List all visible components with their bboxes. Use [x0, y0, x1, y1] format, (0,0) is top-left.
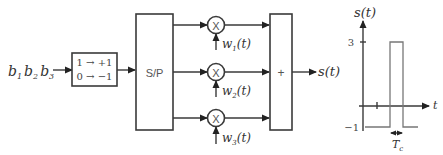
svg-text:b1b2b3: b1b2b3: [8, 63, 54, 81]
branch-2: X w2(t): [173, 64, 269, 101]
svg-text:X: X: [212, 20, 220, 32]
svg-text:−1: −1: [344, 122, 359, 133]
mapper-rule-0: 0 → −1: [77, 71, 113, 82]
branch-1: X w1(t): [173, 17, 269, 54]
summer-label: +: [277, 66, 284, 80]
weight-w3-label: w3(t): [222, 131, 251, 147]
input-bits: b1b2b3: [8, 63, 54, 81]
serial-to-parallel-block: S/P: [136, 14, 173, 130]
svg-text:X: X: [212, 67, 220, 79]
svg-text:3: 3: [348, 37, 354, 48]
weight-w1-label: w1(t): [222, 37, 251, 53]
plot-x-label: t: [433, 99, 438, 112]
signal-plot: s(t) t 3 −1 Tc: [344, 5, 438, 153]
output-label: s(t): [318, 64, 340, 79]
sp-label: S/P: [146, 67, 164, 79]
bit-mapper-block: 1 → +1 0 → −1: [72, 53, 117, 86]
weight-w2-label: w2(t): [222, 84, 251, 100]
pulse-waveform: [365, 42, 418, 127]
summer-block: +: [270, 14, 292, 130]
multicarrier-block-diagram: b1b2b3 1 → +1 0 → −1 S/P X w1(t) X w2(t)…: [0, 0, 443, 155]
plot-y-label: s(t): [354, 5, 376, 20]
svg-text:X: X: [212, 113, 220, 125]
branch-3: X w3(t): [173, 110, 269, 148]
mapper-rule-1: 1 → +1: [77, 57, 113, 68]
tc-label: Tc: [392, 138, 403, 153]
